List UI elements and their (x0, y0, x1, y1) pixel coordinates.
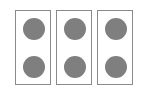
circle-icon (23, 56, 45, 78)
circle-icon (23, 18, 45, 40)
panel-1 (15, 10, 51, 85)
circle-icon (64, 56, 86, 78)
circle-icon (105, 56, 127, 78)
circle-icon (105, 18, 127, 40)
panel-3 (97, 10, 133, 85)
diagram-canvas (0, 0, 149, 96)
circle-icon (64, 18, 86, 40)
panel-2 (56, 10, 92, 85)
